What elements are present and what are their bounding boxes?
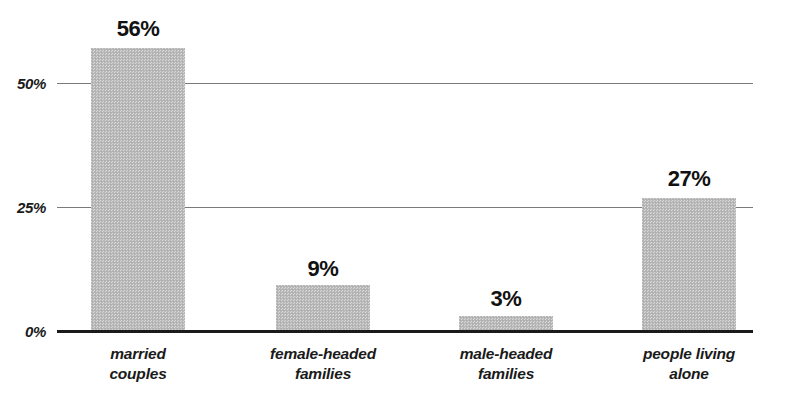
- category-label-line1: male-headed: [460, 345, 553, 362]
- category-label-married-couples: married couples: [58, 344, 218, 385]
- bar-married-couples: [91, 48, 185, 330]
- axis-baseline-0: [57, 330, 753, 333]
- bar-value-male-headed-families: 3%: [446, 288, 566, 310]
- bar-chart: 50% 25% 0% 56% married couples 9% female…: [0, 0, 788, 413]
- bar-people-living-alone: [642, 198, 736, 330]
- plot-area: 50% 25% 0% 56% married couples 9% female…: [0, 0, 788, 413]
- category-label-line2: couples: [58, 364, 218, 384]
- bar-value-people-living-alone: 27%: [629, 168, 749, 190]
- bar-male-headed-families: [459, 316, 553, 330]
- category-label-line2: families: [426, 364, 586, 384]
- category-label-line1: people living: [643, 345, 735, 362]
- category-label-male-headed-families: male-headed families: [426, 344, 586, 385]
- category-label-line1: married: [110, 345, 165, 362]
- category-label-line2: families: [243, 364, 403, 384]
- y-tick-label-25: 25%: [0, 200, 46, 215]
- y-tick-label-50: 50%: [0, 76, 46, 91]
- bar-female-headed-families: [276, 285, 370, 330]
- y-tick-label-0: 0%: [0, 324, 46, 339]
- category-label-line1: female-headed: [270, 345, 376, 362]
- category-label-female-headed-families: female-headed families: [243, 344, 403, 385]
- category-label-people-living-alone: people living alone: [609, 344, 769, 385]
- category-label-line2: alone: [609, 364, 769, 384]
- bar-value-married-couples: 56%: [78, 18, 198, 40]
- bar-value-female-headed-families: 9%: [263, 258, 383, 280]
